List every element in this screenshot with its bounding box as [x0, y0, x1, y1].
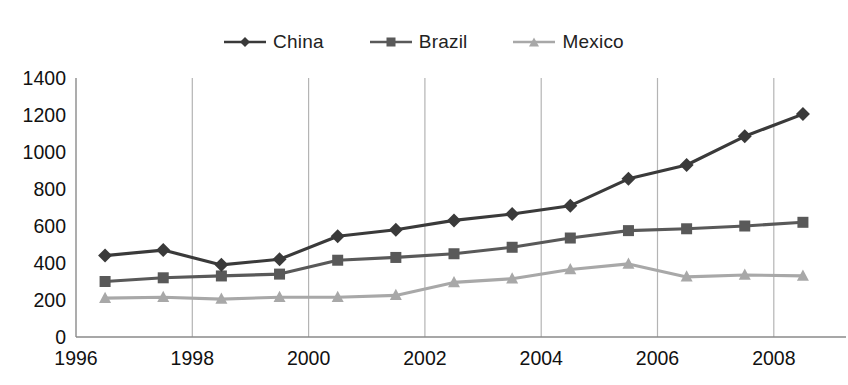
plot-area: 0200400600800100012001400199619982000200…	[0, 0, 848, 385]
x-axis-tick-label: 1998	[171, 347, 214, 369]
x-axis-tick-label: 2000	[287, 347, 331, 369]
y-axis-tick-label: 200	[33, 289, 66, 311]
y-axis-tick-label: 1200	[23, 104, 67, 126]
data-point-square	[100, 276, 111, 287]
data-point-square	[274, 269, 285, 280]
x-axis-tick-label: 2006	[636, 347, 679, 369]
data-point-diamond	[680, 158, 694, 172]
data-point-square	[507, 242, 518, 253]
data-point-square	[158, 272, 169, 283]
data-point-diamond	[796, 107, 810, 121]
data-point-diamond	[563, 199, 577, 213]
x-axis-tick-label: 2004	[520, 347, 564, 369]
x-axis-tick-label: 1996	[54, 347, 97, 369]
data-point-diamond	[214, 258, 228, 272]
data-point-diamond	[98, 249, 112, 263]
data-point-square	[216, 270, 227, 281]
data-point-diamond	[447, 213, 461, 227]
y-axis-tick-label: 400	[33, 252, 66, 274]
x-axis-tick-label: 2002	[403, 347, 446, 369]
series-mexico	[99, 257, 809, 303]
data-point-square	[623, 225, 634, 236]
line-chart: China Brazil Mexico 02004006008001000120…	[0, 0, 848, 385]
data-point-diamond	[505, 207, 519, 221]
y-axis-tick-label: 1400	[23, 67, 67, 89]
data-point-diamond	[738, 129, 752, 143]
data-point-square	[332, 255, 343, 266]
data-point-square	[565, 233, 576, 244]
data-point-diamond	[389, 223, 403, 237]
data-point-square	[681, 223, 692, 234]
series-china	[98, 107, 810, 272]
data-point-square	[449, 248, 460, 259]
data-point-square	[390, 252, 401, 263]
y-axis-tick-label: 0	[55, 326, 66, 348]
data-point-diamond	[273, 252, 287, 266]
x-axis-tick-label: 2008	[752, 347, 795, 369]
series-line-china	[105, 114, 803, 265]
y-axis-tick-label: 600	[33, 215, 66, 237]
y-axis-tick-label: 1000	[23, 141, 67, 163]
data-point-square	[797, 217, 808, 228]
data-point-diamond	[621, 172, 635, 186]
data-point-square	[739, 221, 750, 232]
y-axis-tick-label: 800	[33, 178, 66, 200]
data-point-diamond	[331, 229, 345, 243]
data-point-diamond	[156, 243, 170, 257]
